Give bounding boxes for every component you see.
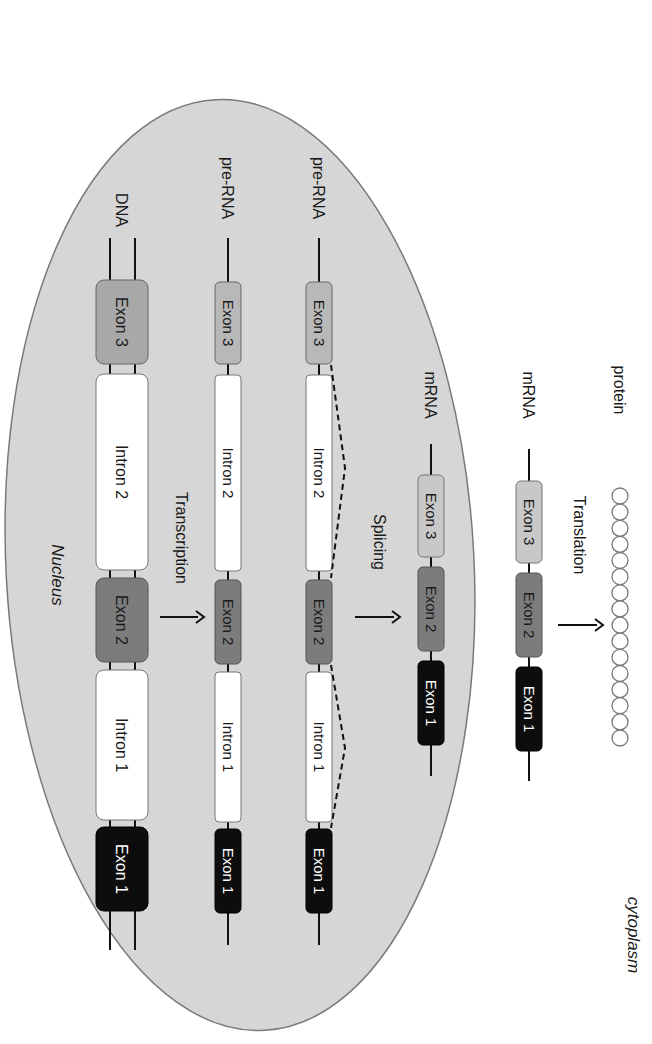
dna-exon-1-label: Exon 1: [113, 844, 130, 894]
amino-acid: [612, 585, 628, 601]
dna-exon-3-label: Exon 3: [113, 297, 130, 347]
pre-rna-2-label: pre-RNA: [310, 157, 327, 220]
translation-label: Translation: [571, 496, 588, 575]
amino-acid: [612, 649, 628, 665]
dna-intron-1-label: Intron 1: [113, 718, 130, 772]
protein-label: protein: [611, 366, 628, 415]
pre-rna-2-intron-1-label: Intron 1: [311, 722, 328, 773]
pre-rna-1-exon-3-label: Exon 3: [220, 300, 237, 347]
amino-acid: [612, 553, 628, 569]
transcription-label: Transcription: [173, 492, 190, 584]
amino-acid: [612, 504, 628, 520]
amino-acid: [612, 488, 628, 504]
protein-stage: protein: [611, 366, 628, 746]
mrna-nucleus-exon-2-label: Exon 2: [423, 586, 440, 633]
amino-acid: [612, 714, 628, 730]
mrna-cytoplasm-label: mRNA: [520, 371, 537, 418]
pre-rna-2-exon-1-label: Exon 1: [311, 848, 328, 895]
cytoplasm-label: cytoplasm: [624, 897, 643, 974]
amino-acid: [612, 666, 628, 682]
mrna-cytoplasm-exon-1-label: Exon 1: [521, 686, 538, 733]
dna-exon-2-label: Exon 2: [113, 595, 130, 645]
pre-rna-1-exon-2-label: Exon 2: [220, 599, 237, 646]
dna-label: DNA: [113, 193, 130, 227]
dna-intron-2-label: Intron 2: [113, 445, 130, 499]
splicing-label: Splicing: [371, 514, 388, 570]
amino-acid: [612, 520, 628, 536]
amino-acid: [612, 569, 628, 585]
mrna-nucleus-exon-1-label: Exon 1: [423, 680, 440, 727]
pre-rna-2-exon-2-label: Exon 2: [311, 599, 328, 646]
pre-rna-2-exon-3-label: Exon 3: [311, 300, 328, 347]
mrna-nucleus-label: mRNA: [422, 371, 439, 418]
mrna-nucleus-exon-3-label: Exon 3: [423, 493, 440, 540]
pre-rna-1-exon-1-label: Exon 1: [220, 848, 237, 895]
translation-step: Translation: [558, 496, 603, 631]
amino-acid: [612, 617, 628, 633]
nucleus-region: [0, 87, 498, 1042]
gene-expression-diagram: Nucleus cytoplasm Exon 3 Intron 2 Exon 2…: [0, 0, 652, 1044]
amino-acid-chain: [612, 488, 628, 746]
pre-rna-1-label: pre-RNA: [219, 157, 236, 220]
nucleus-label: Nucleus: [48, 544, 67, 606]
pre-rna-1-intron-2-label: Intron 2: [220, 448, 237, 499]
mrna-cytoplasm-exon-3-label: Exon 3: [521, 499, 538, 546]
amino-acid: [612, 698, 628, 714]
amino-acid: [612, 536, 628, 552]
mrna-cytoplasm-stage: Exon 3 Exon 2 Exon 1 mRNA: [516, 371, 542, 781]
amino-acid: [612, 601, 628, 617]
pre-rna-2-intron-2-label: Intron 2: [311, 448, 328, 499]
amino-acid: [612, 633, 628, 649]
amino-acid: [612, 730, 628, 746]
amino-acid: [612, 682, 628, 698]
pre-rna-1-intron-1-label: Intron 1: [220, 722, 237, 773]
mrna-cytoplasm-exon-2-label: Exon 2: [521, 592, 538, 639]
